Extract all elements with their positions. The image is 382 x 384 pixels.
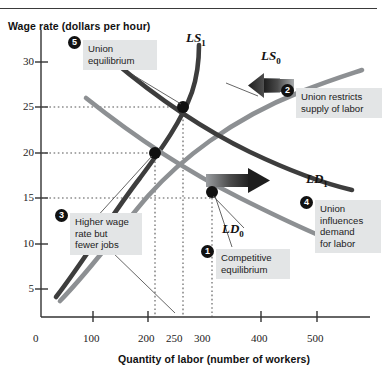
curve-label-ld0-text: LD bbox=[222, 221, 239, 236]
curve-label-ls1-sub: 1 bbox=[201, 38, 206, 48]
callout-badge-2: 2 bbox=[281, 84, 294, 97]
callout-badge-1: 1 bbox=[201, 245, 214, 258]
curve-label-ls1-text: LS bbox=[186, 30, 201, 45]
curve-label-ld1-sub: 1 bbox=[323, 179, 328, 189]
callout-badge-4: 4 bbox=[300, 196, 313, 209]
curve-label-ld0-sub: 0 bbox=[239, 229, 244, 239]
curve-label-ls1: LS1 bbox=[186, 30, 206, 48]
callout-badge-3: 3 bbox=[55, 209, 68, 222]
callout-badge-5: 5 bbox=[68, 36, 81, 49]
callout-higher-wage-fewer-jobs: Higher wage rate but fewer jobs bbox=[70, 213, 142, 255]
point-competitive-equilibrium bbox=[206, 186, 218, 198]
curve-label-ls0-text: LS bbox=[261, 48, 276, 63]
curve-label-ld0: LD0 bbox=[222, 221, 244, 239]
callout-competitive-equilibrium: Competitive equilibrium bbox=[216, 249, 290, 279]
curve-label-ld1: LD1 bbox=[306, 171, 328, 189]
callout-union-restricts-supply: Union restricts supply of labor bbox=[296, 88, 382, 118]
callout-union-influences-demand: Union influences demand for labor bbox=[315, 200, 381, 253]
callout-union-equilibrium: Union equilibrium bbox=[83, 40, 157, 70]
curve-label-ls0: LS0 bbox=[261, 48, 281, 66]
curve-ls1 bbox=[56, 45, 199, 297]
curve-label-ld1-text: LD bbox=[306, 171, 323, 186]
curve-label-ls0-sub: 0 bbox=[276, 56, 281, 66]
